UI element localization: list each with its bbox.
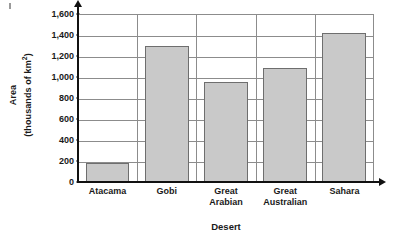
y-axis-arrow-icon — [74, 0, 82, 7]
y-axis-tick-label: 0 — [69, 177, 74, 187]
y-axis-tick-label: 400 — [59, 135, 74, 145]
x-axis-category-label-line: Sahara — [315, 186, 374, 197]
y-axis-tick-label: 1,400 — [51, 30, 74, 40]
y-axis-title-line2-pre: (thousands of km — [23, 60, 33, 137]
x-axis-category-label-line: Arabian — [196, 197, 255, 208]
y-axis-title: Area (thousands of km2) — [0, 0, 42, 190]
gridline-vertical — [137, 15, 138, 182]
y-axis-tick-label: 1,200 — [51, 51, 74, 61]
gridline-vertical — [256, 15, 257, 182]
x-axis-category-label-line: Australian — [256, 197, 315, 208]
x-axis-category-label: GreatAustralian — [256, 186, 315, 208]
y-axis-tick-label: 800 — [59, 93, 74, 103]
bar-chart: Area (thousands of km2) 02004006008001,0… — [0, 0, 394, 243]
y-axis-title-line2-post: ) — [23, 53, 33, 56]
bar — [86, 163, 130, 182]
gridline-vertical — [196, 15, 197, 182]
x-axis-category-labels: AtacamaGobiGreatArabianGreatAustralianSa… — [78, 186, 374, 218]
x-axis-category-label: Atacama — [78, 186, 137, 197]
plot-area — [78, 14, 374, 182]
y-axis-tick-label: 600 — [59, 114, 74, 124]
y-axis-tick-label: 1,000 — [51, 72, 74, 82]
x-axis-title: Desert — [78, 221, 374, 232]
y-axis-tick-label: 200 — [59, 156, 74, 166]
y-axis-tick-label: 1,600 — [51, 9, 74, 19]
x-axis-category-label: Gobi — [137, 186, 196, 197]
bar — [145, 46, 189, 183]
bar — [204, 82, 248, 182]
bar — [263, 68, 307, 182]
y-axis-title-line2: (thousands of km2) — [19, 53, 34, 137]
gridline-vertical — [315, 15, 316, 182]
y-axis-title-superscript: 2 — [21, 56, 28, 60]
x-axis-arrow-icon — [379, 178, 386, 186]
x-axis-category-label: GreatArabian — [196, 186, 255, 208]
x-axis-category-label-line: Great — [196, 186, 255, 197]
x-axis-category-label-line: Great — [256, 186, 315, 197]
y-axis-title-line1: Area — [8, 85, 18, 105]
x-axis-category-label: Sahara — [315, 186, 374, 197]
x-axis-line — [77, 181, 380, 183]
bar — [322, 33, 366, 182]
x-axis-category-label-line: Gobi — [137, 186, 196, 197]
x-axis-category-label-line: Atacama — [78, 186, 137, 197]
y-axis-tick-labels: 02004006008001,0001,2001,4001,600 — [40, 14, 74, 182]
y-axis-line — [77, 6, 79, 183]
